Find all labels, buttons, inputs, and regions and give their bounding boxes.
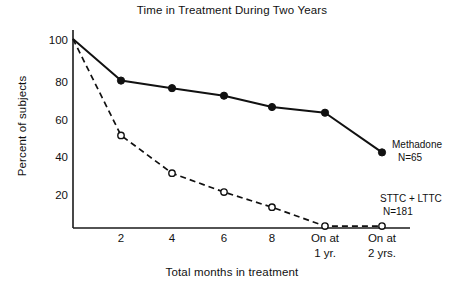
data-point-marker (268, 103, 275, 110)
data-point-marker (379, 223, 385, 229)
data-point-marker (221, 189, 227, 195)
data-point-marker (269, 204, 275, 210)
data-point-marker (118, 132, 124, 138)
data-point-marker (169, 170, 175, 176)
chart-plot-area (0, 0, 464, 286)
chart-figure: Time in Treatment During Two Years Perce… (0, 0, 464, 286)
data-point-marker (322, 223, 328, 229)
data-point-marker (168, 85, 175, 92)
data-point-marker (220, 92, 227, 99)
data-point-marker (117, 77, 124, 84)
series-layer (73, 39, 388, 229)
data-point-marker (321, 109, 328, 116)
